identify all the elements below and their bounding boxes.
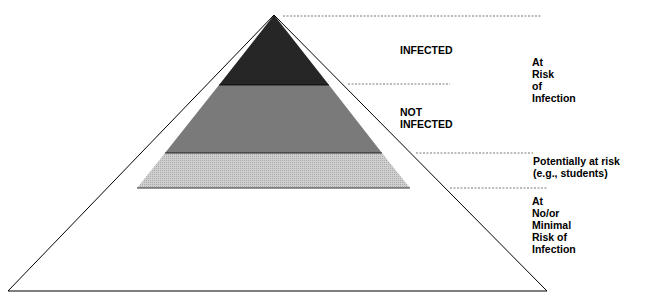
layer-potentially-at-risk [137,153,410,188]
label-not-infected: NOT INFECTED [400,106,453,130]
layer-minimal-risk [8,188,547,291]
label-minimal-risk: At No/or Minimal Risk of Infection [532,195,576,255]
layer-not-infected [165,85,382,153]
risk-pyramid-diagram [0,0,645,302]
label-potentially-at-risk: Potentially at risk (e.g., students) [533,155,620,179]
layer-infected [219,15,329,85]
label-infected: INFECTED [400,44,453,56]
label-at-risk: At Risk of Infection [532,56,576,104]
